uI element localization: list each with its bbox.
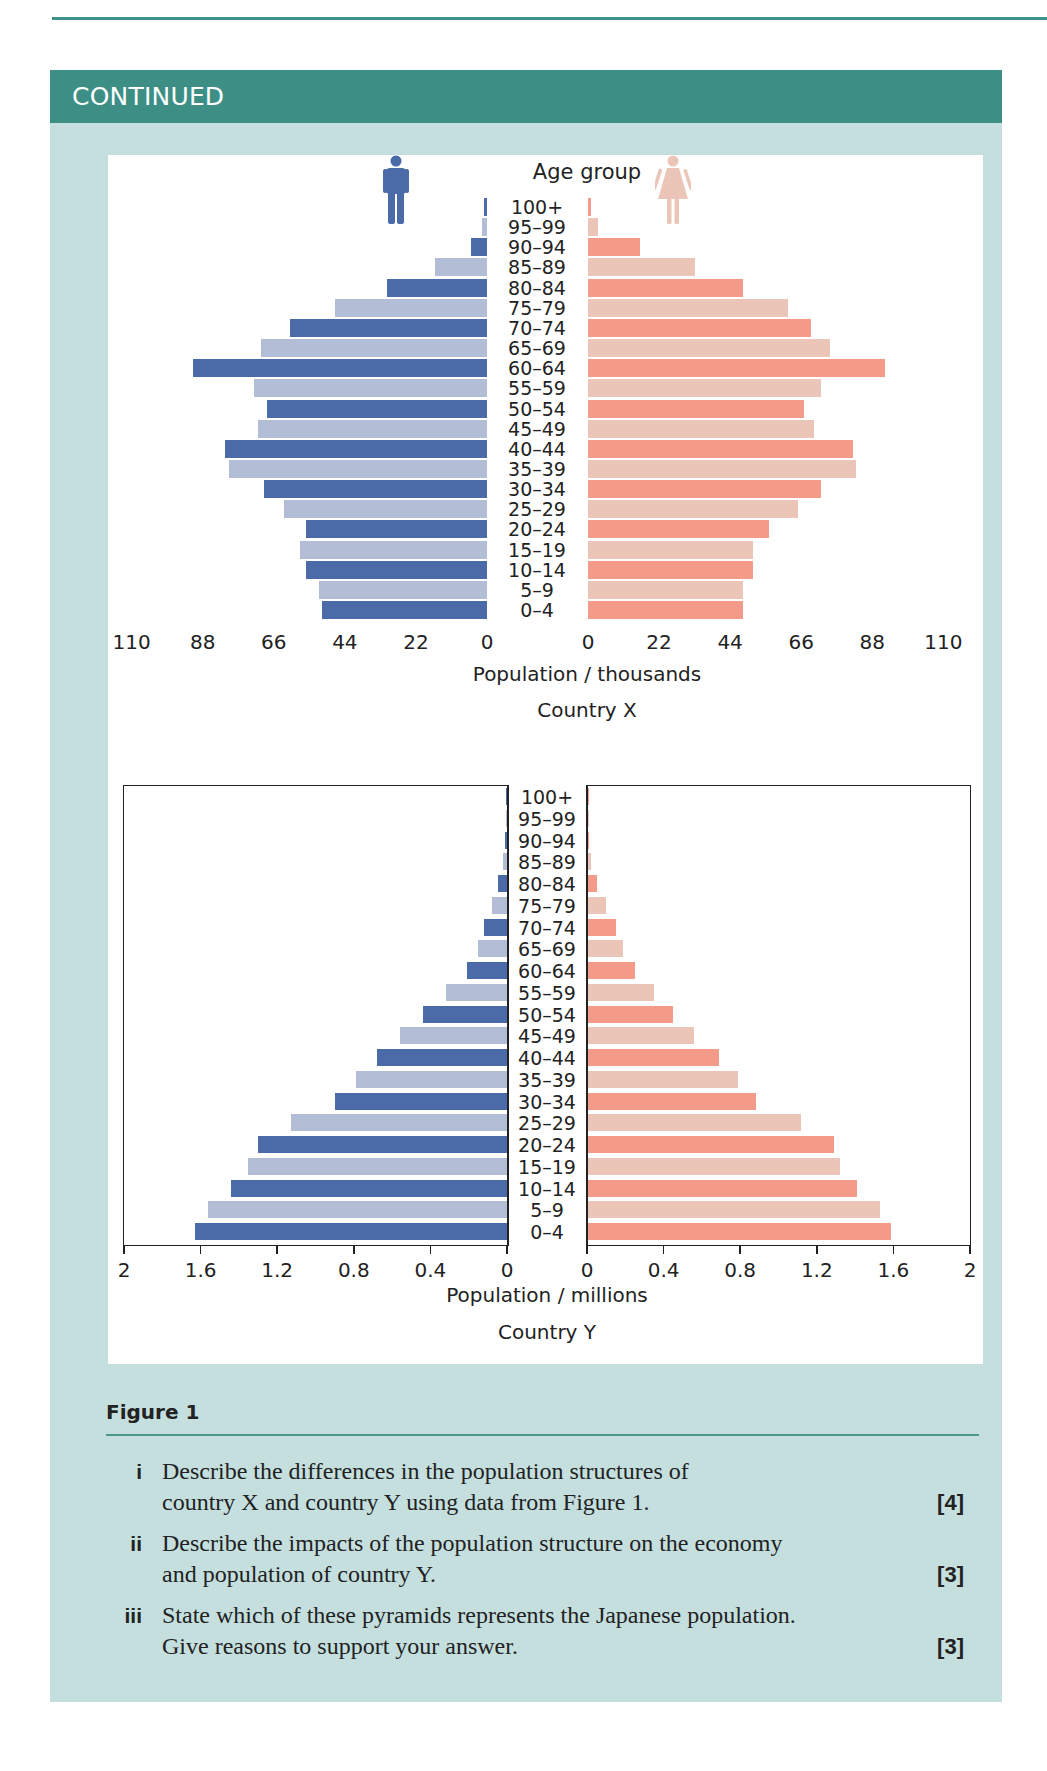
female-bar xyxy=(587,1049,719,1066)
x-axis-tick-right: 0.4 xyxy=(634,1258,694,1282)
question-text-line: Describe the impacts of the population s… xyxy=(162,1528,782,1559)
x-axis-tick-right: 0.8 xyxy=(710,1258,770,1282)
male-bar xyxy=(335,1093,507,1110)
question-number: ii xyxy=(112,1528,142,1559)
age-group-label: 80–84 xyxy=(507,874,587,894)
age-group-label: 50–54 xyxy=(507,1005,587,1025)
x-axis-tick-left: 0.8 xyxy=(324,1258,384,1282)
male-bar xyxy=(478,940,507,957)
female-bar xyxy=(587,1114,801,1131)
question-text-line: country X and country Y using data from … xyxy=(162,1487,649,1518)
female-bar xyxy=(587,1201,880,1218)
question-number: i xyxy=(112,1456,142,1487)
x-axis-tick-left: 1.6 xyxy=(171,1258,231,1282)
figure-rule xyxy=(106,1434,979,1436)
country-y-pyramid: 100+95–9990–9485–8980–8475–7970–7465–696… xyxy=(108,155,983,1364)
age-group-label: 55–59 xyxy=(507,983,587,1003)
male-bar xyxy=(208,1201,507,1218)
female-bar xyxy=(587,1136,834,1153)
age-group-label: 30–34 xyxy=(507,1092,587,1112)
male-bar xyxy=(377,1049,507,1066)
question-marks: [3] xyxy=(937,1559,964,1590)
y-axis-title-millions: Population / millions xyxy=(347,1283,747,1307)
x-axis-tick-right: 1.6 xyxy=(863,1258,923,1282)
female-zero-axis xyxy=(586,785,588,1246)
figure-panel: Age group 100+95–9990–9485–8980–8475–797… xyxy=(108,155,983,1364)
x-axis-tickmark xyxy=(123,1246,125,1254)
question-number: iii xyxy=(112,1600,142,1631)
figure-label: Figure 1 xyxy=(106,1400,199,1424)
female-bar xyxy=(587,940,623,957)
female-bar xyxy=(587,875,597,892)
age-group-label: 0–4 xyxy=(507,1222,587,1242)
age-group-label: 35–39 xyxy=(507,1070,587,1090)
age-group-label: 75–79 xyxy=(507,896,587,916)
question-marks: [4] xyxy=(937,1487,964,1518)
age-group-label: 65–69 xyxy=(507,939,587,959)
female-bar xyxy=(587,853,591,870)
question-text-line: Describe the differences in the populati… xyxy=(162,1456,689,1487)
age-group-label: 95–99 xyxy=(507,809,587,829)
age-group-label: 10–14 xyxy=(507,1179,587,1199)
male-bar xyxy=(498,875,507,892)
male-bar xyxy=(446,984,507,1001)
x-axis-tick-left: 0 xyxy=(477,1258,537,1282)
female-bar xyxy=(587,919,616,936)
male-bar xyxy=(356,1071,507,1088)
male-bar xyxy=(248,1158,507,1175)
age-group-label: 40–44 xyxy=(507,1048,587,1068)
x-axis-tickmark xyxy=(276,1246,278,1254)
age-group-label: 85–89 xyxy=(507,852,587,872)
x-axis-tick-left: 2 xyxy=(94,1258,154,1282)
male-bar xyxy=(467,962,507,979)
age-group-label: 100+ xyxy=(507,787,587,807)
male-bar xyxy=(484,919,507,936)
age-group-label: 20–24 xyxy=(507,1135,587,1155)
age-group-label: 45–49 xyxy=(507,1026,587,1046)
age-group-label: 5–9 xyxy=(507,1200,587,1220)
question-text-line: Give reasons to support your answer. xyxy=(162,1631,518,1662)
x-axis-tickmark xyxy=(739,1246,741,1254)
x-axis-tickmark xyxy=(816,1246,818,1254)
female-bar xyxy=(587,1071,738,1088)
female-bar xyxy=(587,1027,694,1044)
female-bar xyxy=(587,962,635,979)
continued-card: CONTINUED xyxy=(50,70,1002,1702)
x-axis-tick-left: 0.4 xyxy=(400,1258,460,1282)
age-group-label: 15–19 xyxy=(507,1157,587,1177)
female-bar xyxy=(587,897,606,914)
x-axis-tickmark xyxy=(200,1246,202,1254)
male-bar xyxy=(492,897,507,914)
male-bar xyxy=(258,1136,507,1153)
top-rule xyxy=(52,17,1047,20)
male-bar xyxy=(400,1027,507,1044)
x-axis-tickmark xyxy=(586,1246,588,1254)
x-axis-tick-right: 1.2 xyxy=(787,1258,847,1282)
age-group-label: 60–64 xyxy=(507,961,587,981)
x-axis-tick-right: 2 xyxy=(940,1258,1000,1282)
x-axis-tickmark xyxy=(663,1246,665,1254)
male-bar xyxy=(231,1180,507,1197)
x-axis-tickmark xyxy=(506,1246,508,1254)
male-bar xyxy=(423,1006,507,1023)
male-bar xyxy=(195,1223,507,1240)
x-axis-tickmark xyxy=(969,1246,971,1254)
card-header: CONTINUED xyxy=(50,70,1002,123)
country-y-title: Country Y xyxy=(347,1320,747,1344)
female-bar xyxy=(587,1158,840,1175)
age-group-label: 70–74 xyxy=(507,918,587,938)
question-marks: [3] xyxy=(937,1631,964,1662)
female-bar xyxy=(587,984,654,1001)
x-axis-tickmark xyxy=(893,1246,895,1254)
age-group-label: 25–29 xyxy=(507,1113,587,1133)
question-text-line: State which of these pyramids represents… xyxy=(162,1600,796,1631)
age-group-label: 90–94 xyxy=(507,831,587,851)
x-axis-tickmark xyxy=(430,1246,432,1254)
female-bar xyxy=(587,1180,857,1197)
x-axis-tickmark xyxy=(353,1246,355,1254)
female-bar xyxy=(587,1006,673,1023)
x-axis-tick-right: 0 xyxy=(557,1258,617,1282)
question-text-line: and population of country Y. xyxy=(162,1559,436,1590)
female-bar xyxy=(587,1223,891,1240)
male-bar xyxy=(291,1114,507,1131)
